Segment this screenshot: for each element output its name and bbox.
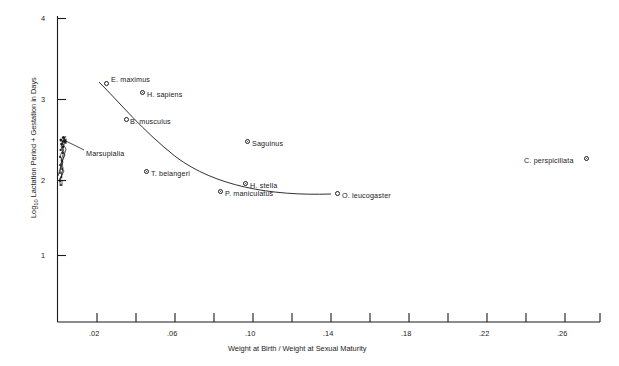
point-label-e-maximus: E. maximus: [111, 76, 150, 83]
x-tick-label-1: .06: [167, 330, 177, 337]
point-label-saguinus: Saguinus: [252, 140, 283, 147]
data-point-saguinus[interactable]: [245, 139, 250, 144]
fit-curve: [99, 82, 331, 194]
x-tick-label-6: .26: [557, 330, 567, 337]
y-axis-title-subscript: 10: [33, 199, 39, 205]
y-axis-title: Log10 Lactation Period + Gestation in Da…: [30, 77, 40, 218]
scatter-plot-canvas: [0, 0, 619, 366]
point-label-t-belangeri: T. belangeri: [151, 170, 190, 177]
marsupialia-leader-line: [65, 141, 85, 151]
data-point-b-musculus[interactable]: [124, 117, 129, 122]
data-point-e-maximus[interactable]: [104, 81, 109, 86]
data-point-h-stella[interactable]: [243, 181, 248, 186]
data-point-p-maniculatus[interactable]: [218, 189, 223, 194]
y-axis-title-prefix: Log: [29, 206, 38, 218]
y-tick-label-2: 2: [41, 177, 45, 184]
data-point-h-sapiens[interactable]: [140, 90, 145, 95]
point-label-p-maniculatus: P. maniculatus: [225, 190, 273, 197]
x-tick-label-3: .14: [323, 330, 333, 337]
y-tick-label-3: 3: [41, 96, 45, 103]
point-label-o-leucogaster: O. leucogaster: [342, 192, 391, 199]
y-tick-label-4: 4: [41, 15, 45, 22]
data-point-c-perspicillata[interactable]: [584, 156, 589, 161]
annotation-marsupialia: Marsupialia: [86, 150, 124, 157]
data-point-t-belangeri[interactable]: [144, 169, 149, 174]
marsupialia-cluster: [58, 136, 84, 186]
y-axis-title-rest: Lactation Period + Gestation in Days: [29, 77, 38, 199]
point-label-h-sapiens: H. sapiens: [147, 91, 182, 98]
x-tick-label-0: .02: [89, 330, 99, 337]
x-tick-label-4: .18: [401, 330, 411, 337]
point-label-c-perspicillata: C. perspicillata: [524, 157, 574, 164]
x-tick-label-5: .22: [479, 330, 489, 337]
point-label-b-musculus: B. musculus: [130, 118, 171, 125]
data-point-o-leucogaster[interactable]: [335, 191, 340, 196]
y-tick-label-1: 1: [41, 252, 45, 259]
x-tick-label-2: .10: [245, 330, 255, 337]
x-axis-title: Weight at Birth / Weight at Sexual Matur…: [228, 345, 367, 352]
x-axis-ticks: [97, 313, 600, 322]
